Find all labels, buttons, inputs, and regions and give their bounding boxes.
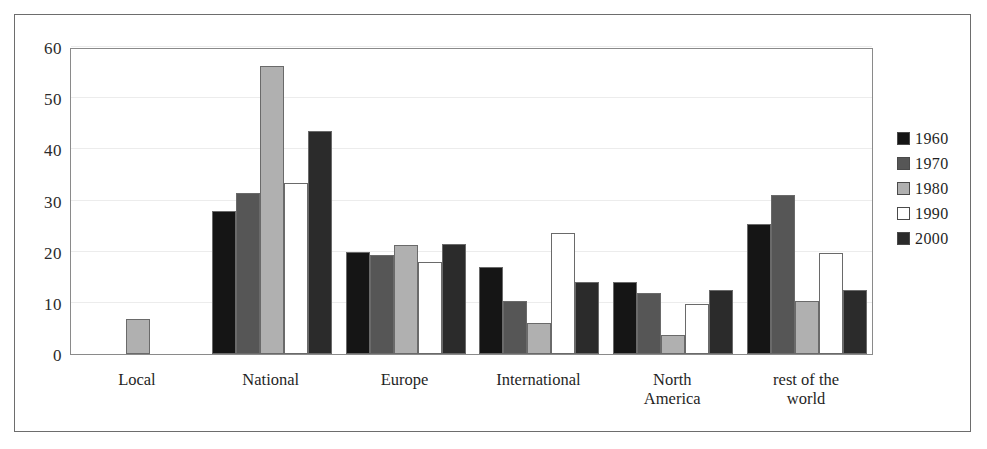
legend-swatch-icon: [897, 207, 910, 220]
legend-swatch-icon: [897, 132, 910, 145]
legend-item: 1990: [897, 201, 963, 226]
legend-label: 1970: [915, 155, 949, 173]
bar: [442, 244, 466, 354]
legend-item: 1980: [897, 176, 963, 201]
plot-area: [70, 48, 873, 355]
bar: [284, 183, 308, 354]
x-axis-tick-label: Local: [60, 371, 214, 390]
bar: [394, 245, 418, 354]
x-axis-tick-label: rest of theworld: [729, 371, 883, 409]
bar: [661, 335, 685, 354]
legend-item: 1970: [897, 151, 963, 176]
legend-label: 2000: [915, 230, 949, 248]
gridline: [71, 97, 872, 98]
legend-swatch-icon: [897, 157, 910, 170]
bar: [212, 211, 236, 354]
legend-item: 2000: [897, 226, 963, 251]
bar: [260, 66, 284, 354]
x-axis-tick-label: National: [194, 371, 348, 390]
legend-label: 1980: [915, 180, 949, 198]
bar: [527, 323, 551, 354]
x-axis-tick-label-line: Europe: [328, 371, 482, 390]
bar: [308, 131, 332, 354]
gridline: [71, 148, 872, 149]
bar: [479, 267, 503, 354]
bar: [795, 301, 819, 354]
bar: [551, 233, 575, 354]
bar: [685, 304, 709, 354]
x-axis-tick-label-line: National: [194, 371, 348, 390]
bar: [771, 195, 795, 354]
y-axis-tick-label: 10: [44, 296, 62, 313]
legend-label: 1990: [915, 205, 949, 223]
bar: [637, 293, 661, 354]
x-axis-tick-label-line: America: [595, 390, 749, 409]
bar: [709, 290, 733, 354]
bar: [418, 262, 442, 354]
bar: [346, 252, 370, 354]
x-axis-tick-label: Europe: [328, 371, 482, 390]
bar: [747, 224, 771, 354]
y-axis-tick-label: 20: [44, 245, 62, 262]
x-axis-tick-label: NorthAmerica: [595, 371, 749, 409]
y-axis-tick-label: 60: [44, 40, 62, 57]
y-axis-tick-label: 0: [53, 347, 62, 364]
bar: [613, 282, 637, 354]
gridline: [71, 200, 872, 201]
gridline: [71, 46, 872, 47]
x-axis-tick-label: International: [462, 371, 616, 390]
x-axis-tick-label-line: rest of the: [729, 371, 883, 390]
y-axis-tick-labels: 0102030405060: [18, 0, 62, 449]
bar: [843, 290, 867, 354]
legend-label: 1960: [915, 130, 949, 148]
x-axis-tick-label-line: Local: [60, 371, 214, 390]
chart-legend: 19601970198019902000: [893, 122, 965, 255]
y-axis-tick-label: 50: [44, 91, 62, 108]
y-axis-tick-label: 40: [44, 142, 62, 159]
legend-swatch-icon: [897, 182, 910, 195]
bar: [575, 282, 599, 354]
bar: [370, 255, 394, 354]
y-axis-tick-label: 30: [44, 194, 62, 211]
x-axis-tick-label-line: International: [462, 371, 616, 390]
x-axis-tick-label-line: North: [595, 371, 749, 390]
legend-swatch-icon: [897, 232, 910, 245]
legend-item: 1960: [897, 126, 963, 151]
x-axis-tick-label-line: world: [729, 390, 883, 409]
bar: [503, 301, 527, 354]
bar: [236, 193, 260, 354]
bar: [819, 253, 843, 354]
chart-figure: 0102030405060 LocalNationalEuropeInterna…: [0, 0, 987, 449]
bar: [126, 319, 150, 354]
